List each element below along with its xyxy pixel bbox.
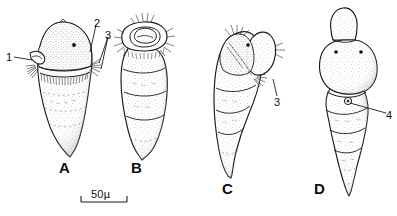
panel-c-leaders [273,79,277,96]
leader-2 [90,25,96,52]
scale-bar-label: 50µ [91,189,110,200]
panel-letter-b: B [131,160,142,175]
panel-d-drawing [319,8,377,196]
panel-a-drawing [26,19,101,157]
panel-letter-a: A [59,160,70,175]
callout-label-2: 2 [94,18,100,29]
figure-plate: A B C D 1 2 3 3 4 50µ [0,0,397,216]
leader-3c [273,79,277,96]
illustration-canvas [0,0,397,216]
callout-label-3-panel-c: 3 [274,97,280,108]
callout-label-4: 4 [386,110,392,121]
callout-label-3-panel-a: 3 [105,30,111,41]
panel-b-drawing [114,13,175,160]
callout-label-1: 1 [6,52,12,63]
panel-letter-c: C [222,181,233,196]
leader-1 [14,57,32,60]
panel-letter-d: D [314,181,325,196]
